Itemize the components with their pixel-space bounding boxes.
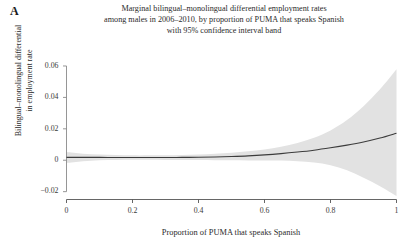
y-tick-label: 0.02 bbox=[25, 124, 59, 133]
x-axis-title: Proportion of PUMA that speaks Spanish bbox=[66, 228, 396, 237]
x-tick-label: 0.2 bbox=[120, 206, 146, 215]
x-tick-label: 0.8 bbox=[318, 206, 344, 215]
x-tick-label: 0.6 bbox=[252, 206, 278, 215]
x-tick-label: 1 bbox=[384, 206, 402, 215]
confidence-interval-band bbox=[67, 69, 397, 196]
y-tick-label: −0.02 bbox=[25, 186, 59, 195]
confidence-band-group bbox=[67, 69, 397, 196]
x-tick-label: 0.4 bbox=[186, 206, 212, 215]
y-tick-label: 0.04 bbox=[25, 92, 59, 101]
y-tick-label: 0 bbox=[25, 155, 59, 164]
x-axis-ticks bbox=[67, 200, 397, 204]
y-axis-ticks bbox=[63, 66, 67, 192]
figure-panel-a: A Marginal bilingual–monolingual differe… bbox=[0, 0, 402, 249]
x-tick-label: 0 bbox=[54, 206, 80, 215]
y-tick-label: 0.06 bbox=[25, 61, 59, 70]
